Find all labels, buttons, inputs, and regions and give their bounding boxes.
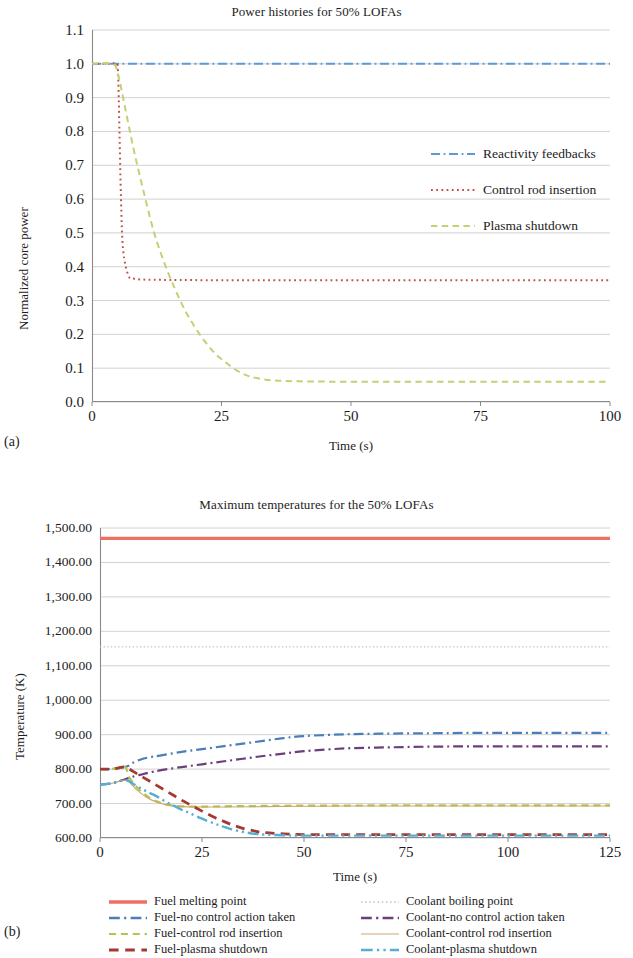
- legend-label: Coolant-plasma shutdown: [406, 942, 537, 957]
- series-line: [100, 780, 610, 835]
- y-axis-tick-label: 0.1: [65, 360, 84, 377]
- legend-label: Reactivity feedbacks: [483, 146, 596, 162]
- x-axis-tick-label: 25: [214, 408, 229, 425]
- y-axis-tick-label: 0.4: [65, 258, 84, 275]
- series-line: [100, 733, 610, 769]
- legend-line-swatch: [360, 944, 400, 956]
- y-axis-label-power: Normalized core power: [16, 207, 32, 330]
- series-line: [100, 780, 610, 807]
- x-axis-label-time-a: Time (s): [92, 438, 610, 454]
- y-axis-tick-label: 0.6: [65, 191, 84, 208]
- y-axis-tick-label: 0.2: [65, 326, 84, 343]
- legend-label: Control rod insertion: [483, 182, 596, 198]
- legend-label: Plasma shutdown: [483, 218, 578, 234]
- legend-line-swatch: [430, 148, 476, 160]
- legend-line-swatch: [108, 896, 148, 908]
- panel-a-power-histories: Power histories for 50% LOFAs Normalized…: [0, 0, 633, 480]
- legend-label: Fuel-plasma shutdown: [154, 942, 268, 957]
- legend-maximum-temperatures: Fuel melting pointCoolant boiling pointF…: [108, 894, 628, 958]
- legend-line-swatch: [108, 912, 148, 924]
- x-axis-tick-label: 50: [344, 408, 359, 425]
- legend-label: Fuel melting point: [154, 894, 246, 909]
- chart-title-power-histories: Power histories for 50% LOFAs: [0, 4, 633, 20]
- legend-item[interactable]: Fuel melting point: [108, 894, 360, 909]
- y-axis-tick-label: 0.5: [65, 224, 84, 241]
- legend-line-swatch: [430, 220, 476, 232]
- x-axis-label-time-b: Time (s): [100, 869, 610, 885]
- legend-line-swatch: [360, 912, 400, 924]
- y-axis-tick-label: 0.7: [65, 157, 84, 174]
- y-axis-tick-label: 1.0: [65, 55, 84, 72]
- legend-line-swatch: [108, 928, 148, 940]
- plot-area-temperature: [100, 528, 610, 838]
- series-line: [100, 746, 610, 784]
- x-axis-tick-label: 0: [88, 408, 96, 425]
- y-axis-tick-label: 0.0: [65, 394, 84, 411]
- legend-item[interactable]: Reactivity feedbacks: [430, 146, 596, 162]
- legend-item[interactable]: Coolant-control rod insertion: [360, 926, 628, 941]
- legend-label: Coolant boiling point: [406, 894, 513, 909]
- y-axis-tick-label: 0.8: [65, 123, 84, 140]
- legend-line-swatch: [430, 184, 476, 196]
- temperature-lines: [100, 528, 610, 838]
- legend-item[interactable]: Coolant-no control action taken: [360, 910, 628, 925]
- legend-item[interactable]: Fuel-plasma shutdown: [108, 942, 360, 957]
- x-axis-tick-label: 75: [473, 408, 488, 425]
- legend-label: Coolant-no control action taken: [406, 910, 565, 925]
- legend-item[interactable]: Fuel-no control action taken: [108, 910, 360, 925]
- legend-item[interactable]: Plasma shutdown: [430, 218, 596, 234]
- y-axis-tick-label: 0.9: [65, 89, 84, 106]
- panel-label-a: (a): [4, 434, 20, 450]
- legend-label: Fuel-control rod insertion: [154, 926, 282, 941]
- legend-line-swatch: [360, 928, 400, 940]
- legend-item[interactable]: Coolant boiling point: [360, 894, 628, 909]
- legend-item[interactable]: Control rod insertion: [430, 182, 596, 198]
- x-axis-tick-label: 100: [599, 408, 622, 425]
- legend-label: Coolant-control rod insertion: [406, 926, 552, 941]
- y-axis-tick-label: 1.1: [65, 22, 84, 39]
- legend-item[interactable]: Coolant-plasma shutdown: [360, 942, 628, 957]
- series-line: [100, 767, 610, 835]
- y-axis-label-temperature: Temperature (K): [12, 673, 28, 760]
- legend-power-histories: Reactivity feedbacksControl rod insertio…: [430, 146, 596, 254]
- panel-label-b: (b): [4, 924, 20, 940]
- chart-title-maximum-temperatures: Maximum temperatures for the 50% LOFAs: [0, 497, 633, 513]
- legend-line-swatch: [360, 896, 400, 908]
- series-line: [100, 767, 610, 807]
- legend-line-swatch: [108, 944, 148, 956]
- legend-item[interactable]: Fuel-control rod insertion: [108, 926, 360, 941]
- legend-label: Fuel-no control action taken: [154, 910, 295, 925]
- y-axis-tick-label: 0.3: [65, 292, 84, 309]
